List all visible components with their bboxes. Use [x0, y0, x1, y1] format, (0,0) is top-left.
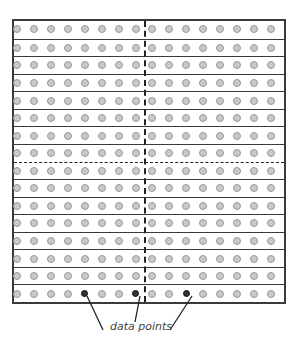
pointer-line-1 [87, 296, 103, 330]
pointer-line-3 [170, 296, 192, 330]
data-points-label: data points [110, 320, 172, 333]
pointer-line-2 [135, 296, 140, 322]
annotation-pointers [0, 0, 294, 346]
